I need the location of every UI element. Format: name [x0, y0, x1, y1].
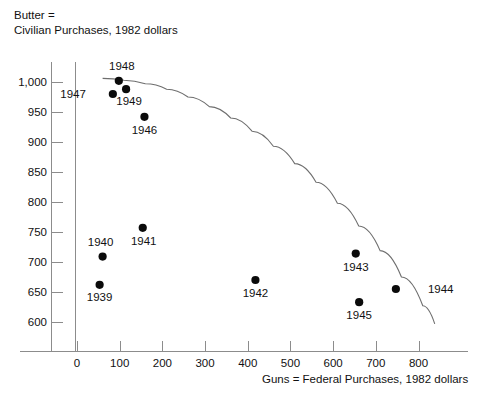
x-tick-label: 700 — [366, 357, 385, 369]
data-point-1939[interactable] — [96, 281, 104, 289]
data-point-1943[interactable] — [352, 250, 360, 258]
y-tick-label: 650 — [28, 286, 47, 298]
y-tick-label: 950 — [28, 106, 47, 118]
x-tick-label: 0 — [74, 357, 80, 369]
data-point-1949[interactable] — [122, 85, 130, 93]
y-tick-label: 750 — [28, 226, 47, 238]
data-point-label-1946: 1946 — [132, 124, 158, 136]
data-point-label-1947: 1947 — [60, 88, 86, 100]
data-point-1941[interactable] — [139, 224, 147, 232]
data-point-1945[interactable] — [355, 298, 363, 306]
x-tick-group: 0100200300400500600700800 — [74, 341, 428, 369]
y-tick-label: 800 — [28, 196, 47, 208]
x-tick-label: 400 — [238, 357, 257, 369]
y-tick-label: 700 — [28, 256, 47, 268]
data-points-group: 1939194019411942194319441945194619471948… — [60, 60, 454, 321]
data-point-label-1939: 1939 — [87, 291, 113, 303]
plot-area: 6006507007508008509009501,000 0100200300… — [0, 0, 479, 400]
y-tick-label: 600 — [28, 316, 47, 328]
x-tick-label: 600 — [324, 357, 343, 369]
data-point-label-1948: 1948 — [109, 60, 135, 72]
data-point-1942[interactable] — [251, 276, 259, 284]
y-tick-label: 900 — [28, 136, 47, 148]
x-tick-label: 800 — [409, 357, 428, 369]
axes-group — [20, 62, 468, 352]
y-tick-label: 850 — [28, 166, 47, 178]
data-point-1946[interactable] — [140, 113, 148, 121]
ppf-curve-group — [103, 78, 435, 323]
data-point-label-1943: 1943 — [343, 261, 369, 273]
x-tick-label: 100 — [110, 357, 129, 369]
x-tick-label: 300 — [195, 357, 214, 369]
data-point-1948[interactable] — [115, 77, 123, 85]
scatter-chart-figure: Butter =Civilian Purchases, 1982 dollars… — [0, 0, 479, 400]
x-tick-label: 200 — [153, 357, 172, 369]
data-point-1940[interactable] — [99, 253, 107, 261]
data-point-1944[interactable] — [392, 285, 400, 293]
ppf-curve — [103, 78, 435, 323]
data-point-label-1944: 1944 — [428, 283, 454, 295]
data-point-label-1945: 1945 — [346, 309, 372, 321]
y-tick-group: 6006507007508008509009501,000 — [18, 76, 63, 328]
x-tick-label: 500 — [281, 357, 300, 369]
x-axis-title: Guns = Federal Purchases, 1982 dollars — [262, 372, 468, 386]
data-point-label-1940: 1940 — [88, 236, 114, 248]
data-point-label-1941: 1941 — [131, 235, 157, 247]
data-point-label-1949: 1949 — [116, 95, 142, 107]
data-point-label-1942: 1942 — [243, 287, 269, 299]
y-tick-label: 1,000 — [18, 76, 47, 88]
